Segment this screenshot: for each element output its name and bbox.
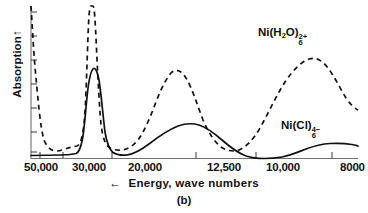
x-tick-label-50000: 50,000 [24, 161, 58, 173]
x-tick-label-30000: 30,000 [72, 161, 106, 173]
series-label-ni-cl: Ni(Cl)4−6 [281, 119, 318, 131]
curve-ni-cl-hexachloro [31, 68, 358, 158]
x-tick-label-12500: 12,500 [207, 161, 241, 173]
left-arrow-icon: ← [109, 176, 121, 190]
up-arrow-icon: ↑ [11, 30, 23, 36]
y-axis-label: Absorption↑ [11, 19, 23, 109]
y-axis-label-text: Absorption [11, 36, 23, 97]
figure-caption: (b) [0, 194, 368, 206]
x-axis-label: ←Energy, wave numbers [0, 176, 368, 190]
absorption-spectrum-figure: 50,000 30,000 20,000 12,500 10,000 8000 … [0, 0, 368, 213]
x-tick-label-20000: 20,000 [128, 161, 162, 173]
x-tick-label-10000: 10,000 [266, 161, 300, 173]
x-tick-label-8000: 8000 [340, 161, 365, 173]
x-axis-label-text: Energy, wave numbers [128, 177, 258, 189]
series-label-ni-h2o: Ni(H2O)2+6 [258, 26, 305, 40]
